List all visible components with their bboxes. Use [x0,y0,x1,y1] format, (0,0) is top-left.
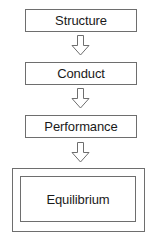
node-conduct[interactable]: Conduct [25,62,137,85]
block-arrow-down-icon [71,35,90,56]
node-equilibrium-label: Equilibrium [46,193,109,206]
node-performance[interactable]: Performance [25,115,137,138]
block-arrow-down-icon [71,142,90,163]
flow-diagram: Structure Conduct Performance Equilibriu… [0,0,155,242]
node-structure-label: Structure [55,14,107,27]
block-arrow-down-icon [71,88,90,109]
node-structure[interactable]: Structure [25,9,137,32]
node-conduct-label: Conduct [57,67,105,80]
node-equilibrium-outer-frame: Equilibrium [12,168,145,232]
node-performance-label: Performance [44,120,117,133]
node-equilibrium[interactable]: Equilibrium [20,176,136,222]
